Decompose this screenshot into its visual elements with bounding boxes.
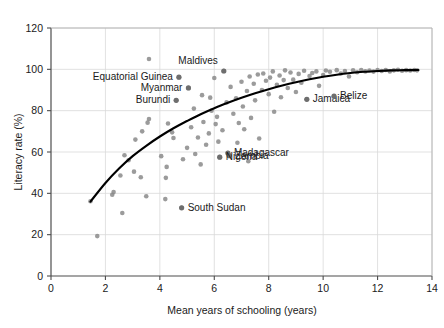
- x-tick-label: 0: [48, 282, 54, 294]
- x-tick-label: 8: [266, 282, 272, 294]
- point-label-south-sudan: South Sudan: [188, 202, 246, 213]
- scatter-point: [285, 86, 290, 91]
- scatter-point: [347, 74, 352, 79]
- scatter-point: [236, 121, 241, 126]
- scatter-point: [166, 121, 171, 126]
- scatter-point: [164, 176, 169, 181]
- y-tick-label: 120: [25, 22, 43, 34]
- x-tick-label: 4: [157, 282, 163, 294]
- scatter-point: [192, 106, 197, 111]
- scatter-point: [245, 89, 250, 94]
- scatter-point: [251, 82, 256, 87]
- point-label-burundi: Burundi: [136, 94, 170, 105]
- y-tick-label: 0: [37, 270, 43, 282]
- scatter-point: [264, 78, 269, 83]
- x-tick-label: 12: [372, 282, 384, 294]
- scatter-point: [159, 154, 164, 159]
- scatter-point: [283, 68, 288, 73]
- x-tick-label: 14: [426, 282, 438, 294]
- scatter-point: [314, 69, 319, 74]
- annotated-point-marker: [179, 205, 184, 210]
- scatter-point: [213, 122, 218, 127]
- scatter-point: [302, 68, 307, 73]
- scatter-point: [193, 152, 198, 157]
- x-tick-label: 6: [211, 282, 217, 294]
- annotated-point-marker: [304, 97, 309, 102]
- scatter-point: [207, 131, 212, 136]
- y-tick-label: 60: [31, 146, 43, 158]
- scatter-point: [120, 211, 125, 216]
- chart-canvas: 02468101214020406080100120 MaldivesEquat…: [0, 0, 444, 328]
- scatter-point: [317, 84, 322, 89]
- scatter-point: [279, 95, 284, 100]
- point-label-maldives: Maldives: [178, 55, 217, 66]
- y-tick-label: 100: [25, 63, 43, 75]
- scatter-point: [334, 68, 339, 73]
- scatter-point: [122, 153, 127, 158]
- point-label-nigeria: Nigeria: [226, 151, 258, 162]
- annotated-point-marker: [221, 68, 226, 73]
- scatter-point: [208, 95, 213, 100]
- scatter-point: [288, 70, 293, 75]
- scatter-point: [231, 111, 236, 116]
- scatter-point: [241, 104, 246, 109]
- scatter-point: [256, 72, 261, 77]
- scatter-point: [281, 78, 286, 83]
- scatter-point: [291, 77, 296, 82]
- scatter-point: [144, 194, 149, 199]
- scatter-point: [239, 79, 244, 84]
- scatter-point: [185, 146, 190, 151]
- scatter-point: [249, 116, 254, 121]
- scatter-point: [212, 76, 217, 81]
- point-label-myanmar: Myanmar: [141, 82, 183, 93]
- point-label-equatorial-guinea: Equatorial Guinea: [93, 71, 173, 82]
- scatter-point: [215, 115, 220, 120]
- scatter-point: [266, 92, 271, 97]
- scatter-point: [118, 173, 123, 178]
- scatter-point: [268, 75, 273, 80]
- scatter-point: [164, 165, 169, 170]
- x-tick-label: 10: [317, 282, 329, 294]
- scatter-point: [296, 72, 301, 77]
- y-axis-title: Literacy rate (%): [12, 113, 24, 190]
- scatter-point: [235, 140, 240, 145]
- y-tick-label: 20: [31, 228, 43, 240]
- scatter-point: [261, 71, 266, 76]
- scatter-point: [139, 175, 144, 180]
- scatter-point: [228, 85, 233, 90]
- scatter-point: [328, 70, 333, 75]
- annotated-point-marker: [217, 155, 222, 160]
- scatter-point: [171, 136, 176, 141]
- scatter-point: [271, 69, 276, 74]
- scatter-point: [95, 234, 100, 239]
- scatter-point: [200, 93, 205, 98]
- y-tick-label: 80: [31, 104, 43, 116]
- scatter-point: [132, 169, 137, 174]
- scatter-point: [140, 129, 145, 134]
- scatter-point: [147, 57, 152, 62]
- annotated-point-marker: [331, 94, 336, 99]
- scatter-point: [201, 120, 206, 125]
- scatter-point: [277, 73, 282, 78]
- annotated-point-marker: [174, 98, 179, 103]
- scatter-point: [310, 71, 315, 76]
- scatter-point: [253, 98, 258, 103]
- point-label-belize: Belize: [340, 90, 368, 101]
- x-axis-title: Mean years of schooling (years): [167, 304, 316, 316]
- scatter-point: [204, 142, 209, 147]
- scatter-point: [163, 197, 168, 202]
- scatter-point: [242, 127, 247, 132]
- scatter-point: [247, 74, 252, 79]
- scatter-point: [257, 136, 262, 141]
- scatter-point: [147, 117, 152, 122]
- scatter-plot-figure: 02468101214020406080100120 MaldivesEquat…: [0, 0, 444, 328]
- scatter-point: [189, 125, 194, 130]
- scatter-point: [111, 190, 116, 195]
- annotated-point-marker: [186, 85, 191, 90]
- scatter-point: [196, 135, 201, 140]
- scatter-point: [198, 162, 203, 167]
- annotated-point-marker: [176, 75, 181, 80]
- scatter-point: [324, 68, 329, 73]
- scatter-point: [216, 139, 221, 144]
- x-tick-label: 2: [103, 282, 109, 294]
